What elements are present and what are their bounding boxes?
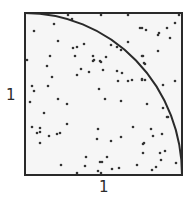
sample-point	[160, 159, 163, 162]
sample-point	[56, 133, 59, 136]
sample-point	[36, 132, 39, 135]
sample-point	[100, 172, 103, 175]
sample-point	[49, 55, 52, 58]
sample-point	[116, 70, 119, 73]
sample-point	[142, 55, 145, 58]
sample-point	[150, 128, 153, 131]
sample-point	[76, 74, 79, 77]
sample-point	[144, 79, 147, 82]
sample-point	[76, 46, 79, 49]
sample-point	[39, 142, 42, 145]
sample-point	[83, 43, 86, 46]
unit-square	[25, 13, 182, 175]
sample-point	[117, 80, 120, 83]
sample-point	[141, 27, 144, 30]
sample-point	[43, 112, 46, 115]
sample-point	[26, 59, 29, 62]
sample-point	[121, 72, 124, 75]
sample-point	[141, 79, 144, 82]
sample-point	[102, 69, 105, 72]
sample-point	[71, 18, 74, 21]
sample-point	[48, 135, 51, 138]
sample-point	[101, 161, 104, 164]
sample-point	[111, 168, 114, 171]
sample-point	[169, 37, 172, 40]
sample-point	[60, 164, 63, 167]
monte-carlo-diagram	[0, 0, 194, 201]
sample-point	[31, 85, 34, 88]
sample-point	[85, 156, 88, 159]
sample-point	[159, 152, 162, 155]
side-length-label-vertical: 1	[6, 88, 16, 103]
sample-point	[100, 14, 103, 17]
sample-point	[132, 126, 135, 129]
sample-point	[47, 85, 50, 88]
sample-point	[110, 44, 113, 47]
sample-point	[167, 116, 170, 119]
sample-point	[105, 56, 108, 59]
sample-point	[39, 131, 42, 134]
sample-point	[142, 152, 145, 155]
sample-point	[57, 98, 60, 101]
sample-point	[66, 103, 69, 106]
sample-point	[88, 71, 91, 74]
sample-point	[146, 103, 149, 106]
sample-point	[174, 80, 177, 83]
sample-point	[74, 55, 77, 58]
sample-point	[31, 126, 34, 129]
sample-point	[97, 128, 100, 131]
sample-point	[66, 123, 69, 126]
sample-point	[151, 169, 154, 172]
sample-point	[162, 84, 165, 87]
sample-point	[106, 156, 109, 159]
sample-point	[157, 34, 160, 37]
sample-point	[80, 68, 83, 71]
sample-point	[46, 65, 49, 68]
sample-point	[131, 79, 134, 82]
sample-point	[164, 150, 167, 153]
sample-point	[145, 29, 148, 32]
sample-point	[98, 88, 101, 91]
sample-point	[120, 136, 123, 139]
sample-point	[162, 107, 165, 110]
sample-point	[136, 164, 139, 167]
sample-point	[110, 140, 113, 143]
sample-point	[84, 165, 87, 168]
sample-point	[57, 40, 60, 43]
sample-point	[29, 101, 32, 104]
sample-point	[152, 135, 155, 138]
sample-point	[142, 143, 145, 146]
sample-point	[72, 47, 75, 50]
sample-point	[92, 55, 95, 58]
sample-point	[96, 138, 99, 141]
sample-point	[100, 61, 103, 64]
sample-point	[175, 162, 178, 165]
sample-point	[116, 46, 119, 49]
sample-point	[127, 41, 130, 44]
sample-point	[120, 100, 123, 103]
sample-point	[127, 80, 130, 83]
sample-point	[104, 98, 107, 101]
side-length-label-horizontal: 1	[99, 180, 109, 195]
sample-point	[166, 27, 169, 30]
sample-point	[59, 132, 62, 135]
sample-point	[97, 170, 100, 173]
sample-point	[67, 14, 70, 17]
sample-point	[178, 14, 181, 17]
sample-point	[127, 14, 130, 17]
sample-point	[51, 76, 54, 79]
sample-point	[157, 50, 160, 53]
sample-point	[161, 133, 164, 136]
sample-point	[53, 23, 56, 26]
sample-point	[33, 90, 36, 93]
sample-point	[33, 30, 36, 33]
sample-point	[39, 127, 42, 130]
sample-point	[155, 166, 158, 169]
sample-point	[174, 22, 177, 25]
sample-point	[76, 172, 79, 175]
sample-point	[92, 60, 95, 63]
sample-point	[144, 63, 147, 66]
sample-point	[120, 49, 123, 52]
sample-point	[118, 167, 121, 170]
